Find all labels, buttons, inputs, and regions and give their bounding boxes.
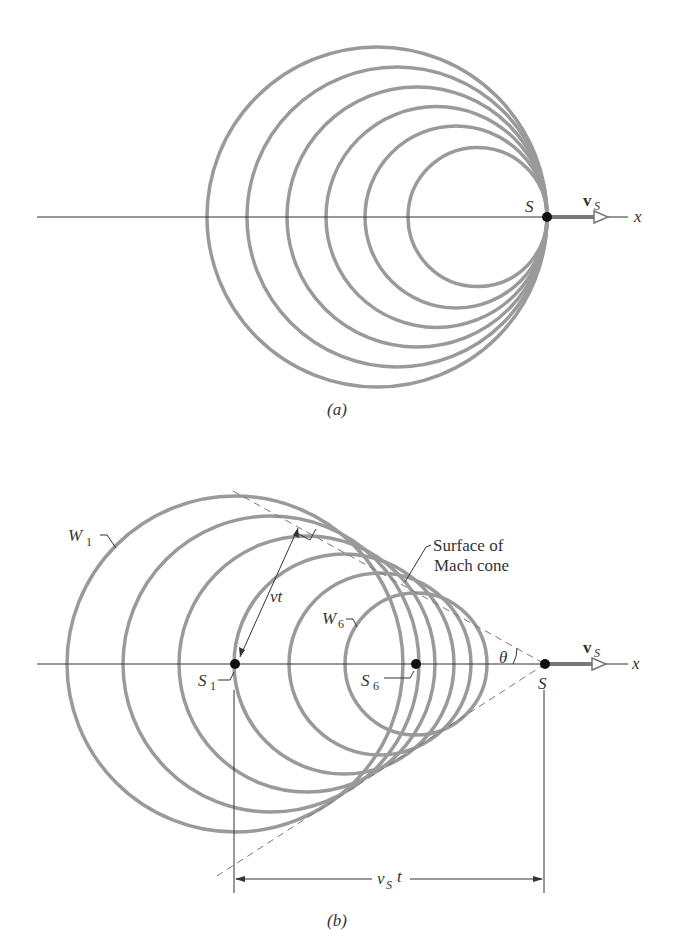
- source-label-b: S: [538, 674, 547, 693]
- mach-cone-label-line1: Surface of: [433, 536, 504, 555]
- w1-label: W: [68, 526, 84, 545]
- mach-cone-label-line2: Mach cone: [434, 556, 509, 575]
- axis-label-b: x: [631, 654, 640, 673]
- theta-arc: [513, 648, 517, 664]
- source-dot-s6: [411, 659, 421, 669]
- caption-b: (b): [327, 911, 347, 930]
- velocity-label-a: v: [583, 191, 592, 210]
- velocity-sub-b: S: [594, 646, 600, 660]
- panel-a: S v S x (a): [37, 47, 642, 419]
- source-dot-s: [540, 659, 550, 669]
- caption-a: (a): [327, 400, 347, 419]
- s1-leader: [218, 672, 234, 680]
- w6-label: W: [322, 609, 338, 628]
- w6-sub: 6: [338, 617, 344, 631]
- source-dot-a: [542, 212, 552, 222]
- s6-leader: [384, 671, 414, 678]
- panel-b: vt θ W 1 W 6 S 1 S 6 S v S x Surface of …: [37, 491, 640, 930]
- distance-label: v: [377, 869, 385, 888]
- s6-sub: 6: [373, 679, 379, 693]
- vt-radius-line: [240, 528, 298, 657]
- s1-label: S: [198, 671, 207, 690]
- s6-label: S: [361, 671, 370, 690]
- s1-sub: 1: [210, 679, 216, 693]
- distance-sub: S: [386, 878, 392, 892]
- vt-label: vt: [270, 587, 284, 606]
- theta-label: θ: [499, 648, 507, 667]
- velocity-label-b: v: [583, 638, 592, 657]
- velocity-sub-a: S: [594, 199, 600, 213]
- dimension-arrowhead-right: [533, 876, 543, 882]
- w1-sub: 1: [86, 535, 92, 549]
- mach-cone-lower-line: [217, 664, 545, 876]
- mach-cone-leader: [405, 545, 431, 582]
- source-dot-s1: [230, 659, 240, 669]
- doppler-mach-cone-figure: S v S x (a) vt θ: [0, 0, 678, 950]
- axis-label-a: x: [633, 207, 642, 226]
- source-label-a: S: [525, 197, 534, 216]
- dimension-arrowhead-left: [235, 876, 245, 882]
- distance-tail: t: [397, 867, 403, 886]
